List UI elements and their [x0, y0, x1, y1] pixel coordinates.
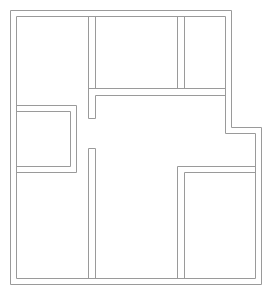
floor-plan-drawing	[0, 0, 274, 298]
building-outer-boundary	[11, 11, 262, 285]
building-inner-boundary	[17, 17, 256, 279]
floor-plan-canvas	[0, 0, 274, 298]
wall-bottom-right-room	[178, 167, 256, 279]
wall-vertical-center-lower	[89, 149, 96, 279]
wall-small-left-room	[17, 106, 77, 173]
wall-horizontal-below-top-rooms	[89, 89, 226, 96]
wall-vertical-top-right-room	[178, 17, 185, 89]
wall-stub-upper-center	[89, 89, 96, 119]
wall-vertical-left-upper	[89, 17, 96, 106]
